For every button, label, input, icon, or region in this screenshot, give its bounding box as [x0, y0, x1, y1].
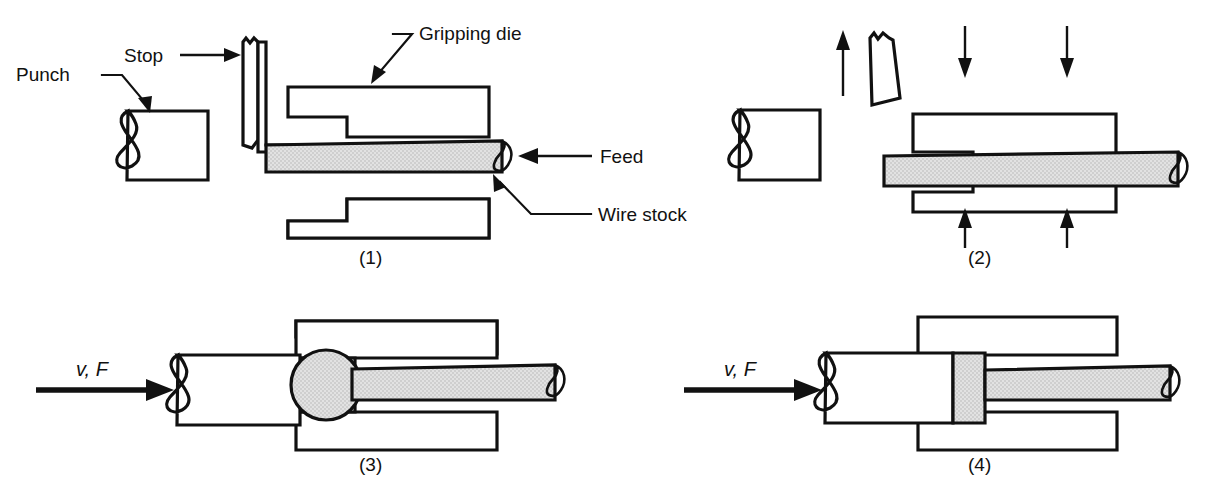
step-4-caption: (4) [968, 454, 991, 475]
velocity-force-label-3: v, F [76, 358, 110, 380]
wire-stock-1 [266, 141, 502, 172]
feed-label: Feed [600, 146, 643, 167]
wire-stock-2 [884, 152, 1178, 186]
step-3-caption: (3) [359, 454, 382, 475]
stop-bar-1 [243, 38, 258, 148]
upset-head-4 [953, 353, 985, 423]
upper-die-4-body [918, 317, 1117, 355]
step-2-caption: (2) [968, 247, 991, 268]
punch-body-3 [167, 355, 300, 425]
figure-canvas: Punch Stop Gripping die Feed Wire stock … [0, 0, 1211, 494]
punch-label: Punch [16, 64, 70, 85]
cold-heading-figure: Punch Stop Gripping die Feed Wire stock … [0, 0, 1211, 494]
stop-label: Stop [124, 45, 163, 66]
wire-stock-3 [352, 365, 555, 400]
wire-stock-4 [985, 366, 1170, 400]
gripping-die-label: Gripping die [419, 23, 521, 44]
velocity-force-label-4: v, F [724, 358, 758, 380]
punch-body-4 [815, 353, 953, 423]
step-1-caption: (1) [359, 247, 382, 268]
wire-stock-label: Wire stock [598, 204, 687, 225]
